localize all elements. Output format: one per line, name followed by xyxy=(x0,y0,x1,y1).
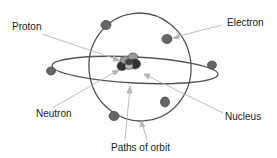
proton-leader xyxy=(42,34,119,60)
nucleus-arrowhead xyxy=(144,74,150,79)
neutron-leader xyxy=(52,71,117,108)
atom-diagram: Proton Electron Neutron Nucleus Paths of… xyxy=(0,0,277,158)
orbit-arrowhead-1 xyxy=(127,86,132,93)
neutron-label: Neutron xyxy=(36,108,72,120)
electron-particle xyxy=(162,35,172,44)
orbit-arrowhead-2 xyxy=(140,121,145,127)
electron-particle xyxy=(101,21,111,30)
vertical-orbit xyxy=(82,6,198,127)
electron-particle xyxy=(161,97,170,107)
neutron-particle xyxy=(126,59,133,65)
electron-arrowhead xyxy=(173,34,179,39)
electron-particle xyxy=(47,67,56,75)
proton-label: Proton xyxy=(12,21,41,33)
electron-label: Electron xyxy=(227,17,264,29)
nucleus xyxy=(117,53,141,71)
electron-particle xyxy=(109,112,119,121)
electron-particle xyxy=(208,61,217,69)
orbit-leader-1 xyxy=(125,88,130,140)
nucleus-leader xyxy=(146,75,223,113)
neutron-arrowhead xyxy=(112,70,119,75)
nucleus-label: Nucleus xyxy=(225,111,261,123)
electron-leader xyxy=(175,25,222,37)
paths-of-orbit-label: Paths of orbit xyxy=(111,142,170,154)
